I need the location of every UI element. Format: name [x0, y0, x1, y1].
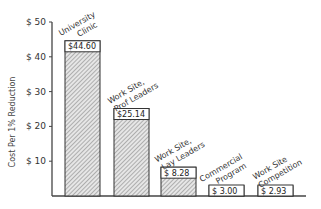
value-label: $ 3.00 — [212, 187, 237, 196]
y-tick-label: $ 20 — [26, 121, 46, 131]
bars: $44.60UniversityClinic$25.14Work Site,Pr… — [57, 10, 303, 196]
value-label: $ 2.93 — [261, 187, 286, 196]
bar-group: $ 2.93Work SiteCompetition — [251, 149, 303, 196]
bar — [114, 109, 149, 196]
y-tick-label: $ 30 — [26, 87, 46, 97]
y-axis-label: Cost Per 1% Reduction — [8, 77, 17, 168]
value-label: $44.60 — [68, 42, 96, 51]
y-tick-label: $ 40 — [26, 52, 46, 62]
bar-chart: $ 10$ 20$ 30$ 40$ 50 $44.60UniversityCli… — [0, 0, 321, 209]
category-label: Work SiteCompetition — [251, 149, 303, 190]
bar-group: $ 3.00CommercialProgram — [198, 152, 249, 196]
value-label: $ 8.28 — [164, 169, 189, 178]
y-tick-label: $ 10 — [26, 156, 46, 166]
bar-group: $25.14Work Site,Prof Leaders — [106, 72, 160, 196]
value-label: $25.14 — [117, 110, 145, 119]
bar-group: $ 8.28Work Site,Lay Leaders — [153, 131, 206, 196]
bar-group: $44.60UniversityClinic — [57, 10, 102, 196]
category-label: Work Site,Prof Leaders — [106, 72, 160, 114]
y-tick-label: $ 50 — [26, 17, 46, 27]
bar — [65, 41, 100, 196]
